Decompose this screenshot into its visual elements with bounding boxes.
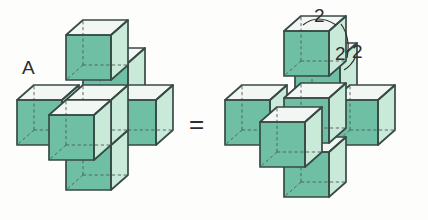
cube-top — [66, 20, 128, 80]
dimension-label-top: 2 — [314, 5, 325, 26]
figure-canvas: A = — [0, 0, 428, 220]
polycube-equation-figure: A = — [0, 0, 428, 220]
left-solid-figure — [17, 20, 173, 190]
right-exploded-figure — [225, 16, 395, 197]
exploded-cube-front — [260, 107, 322, 167]
solid-label-a: A — [22, 57, 35, 78]
dimension-label-side: 2 — [352, 41, 363, 62]
cube-front — [49, 100, 111, 160]
dimension-label-front: 2 — [335, 43, 346, 64]
equals-sign: = — [189, 109, 204, 139]
